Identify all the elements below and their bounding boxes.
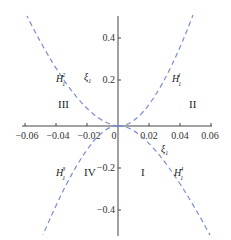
svg-text:ξ1: ξ1: [84, 71, 91, 84]
curve-h1-3: [43, 126, 118, 235]
x-tick-label: 0.04: [171, 130, 189, 141]
svg-text:H13: H13: [55, 166, 65, 181]
y-tick-label: −0.2: [97, 162, 115, 173]
curve-h1-1: [118, 15, 193, 126]
region-label-ii: II: [189, 98, 197, 110]
region-label-iv: IV: [84, 166, 96, 178]
annotation-h1-4: H14: [173, 166, 183, 181]
x-tick-label: 0.02: [140, 130, 158, 141]
x-tick-label: −0.04: [46, 130, 69, 141]
annotation-xi-upper: ξ1: [84, 71, 91, 84]
annotation-h1-3: H13: [55, 166, 65, 181]
svg-text:H12: H12: [55, 72, 65, 87]
region-label-iii: III: [58, 98, 69, 110]
svg-text:ξ1: ξ1: [161, 143, 168, 156]
svg-text:H11: H11: [171, 72, 181, 87]
y-tick-labels: 0.4 0.2 −0.2 −0.4: [97, 32, 115, 215]
x-tick-label: −0.06: [15, 130, 38, 141]
y-tick-label: 0.4: [103, 32, 116, 43]
x-tick-labels: −0.06 −0.04 −0.02 0 0.02 0.04 0.06: [15, 130, 218, 141]
annotation-h1-1: H11: [171, 72, 181, 87]
x-tick-label: 0: [112, 130, 117, 141]
chart: −0.06 −0.04 −0.02 0 0.02 0.04 0.06 0.4 0…: [0, 0, 231, 240]
y-tick-label: −0.4: [97, 204, 115, 215]
svg-text:H14: H14: [173, 166, 183, 181]
annotation-h1-2: H12: [55, 72, 65, 87]
x-tick-label: −0.02: [77, 130, 100, 141]
region-label-i: I: [141, 166, 145, 178]
annotation-xi-lower: ξ1: [161, 143, 168, 156]
x-tick-label: 0.06: [201, 130, 219, 141]
y-tick-label: 0.2: [103, 74, 116, 85]
